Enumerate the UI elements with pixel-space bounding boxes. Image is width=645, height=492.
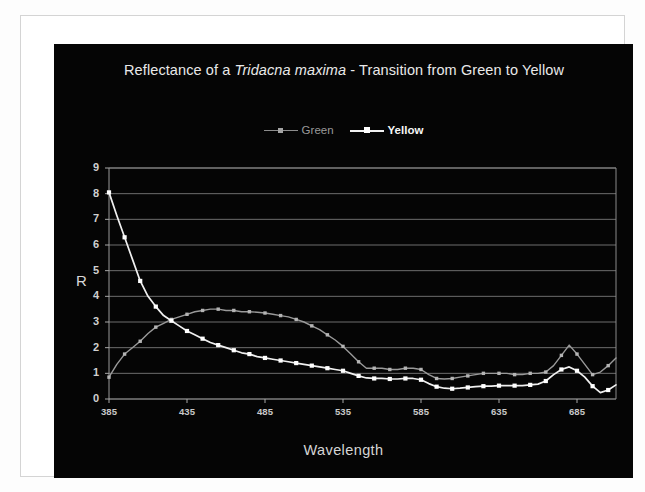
series-marker-green bbox=[560, 354, 563, 357]
x-tick-label: 485 bbox=[243, 406, 287, 417]
series-marker-green bbox=[326, 333, 329, 336]
series-marker-yellow bbox=[435, 385, 439, 389]
series-marker-yellow bbox=[388, 377, 392, 381]
series-marker-green bbox=[217, 307, 220, 310]
x-tick-label: 535 bbox=[321, 406, 365, 417]
series-marker-green bbox=[404, 367, 407, 370]
series-marker-green bbox=[139, 340, 142, 343]
series-marker-green bbox=[310, 324, 313, 327]
series-marker-green bbox=[482, 372, 485, 375]
series-marker-yellow bbox=[341, 369, 345, 373]
series-marker-yellow bbox=[279, 358, 283, 362]
y-tick-label: 1 bbox=[77, 366, 99, 378]
y-tick-label: 8 bbox=[77, 187, 99, 199]
series-marker-green bbox=[341, 345, 344, 348]
x-tick-label: 435 bbox=[165, 406, 209, 417]
series-marker-green bbox=[529, 372, 532, 375]
x-tick-label: 635 bbox=[477, 406, 521, 417]
series-marker-green bbox=[295, 318, 298, 321]
series-marker-green bbox=[497, 372, 500, 375]
series-marker-yellow bbox=[123, 235, 127, 239]
series-marker-yellow bbox=[263, 356, 267, 360]
series-marker-yellow bbox=[294, 361, 298, 365]
series-marker-yellow bbox=[419, 378, 423, 382]
series-marker-yellow bbox=[107, 190, 111, 194]
series-marker-yellow bbox=[403, 376, 407, 380]
series-marker-yellow bbox=[559, 367, 563, 371]
series-marker-yellow bbox=[138, 279, 142, 283]
y-tick-label: 7 bbox=[77, 212, 99, 224]
series-line-yellow bbox=[109, 192, 616, 392]
series-marker-green bbox=[544, 370, 547, 373]
series-marker-green bbox=[466, 374, 469, 377]
series-marker-yellow bbox=[466, 385, 470, 389]
series-marker-yellow bbox=[450, 387, 454, 391]
series-marker-yellow bbox=[357, 374, 361, 378]
series-marker-yellow bbox=[513, 384, 517, 388]
figure-frame: Reflectance of a Tridacna maxima - Trans… bbox=[20, 15, 625, 477]
chart-figure: Reflectance of a Tridacna maxima - Trans… bbox=[54, 44, 633, 478]
series-marker-yellow bbox=[528, 383, 532, 387]
series-marker-yellow bbox=[497, 384, 501, 388]
series-marker-green bbox=[591, 373, 594, 376]
series-marker-green bbox=[154, 325, 157, 328]
y-tick-label: 6 bbox=[77, 238, 99, 250]
series-marker-green bbox=[248, 310, 251, 313]
series-marker-yellow bbox=[372, 376, 376, 380]
y-tick-label: 0 bbox=[77, 392, 99, 404]
y-tick-label: 4 bbox=[77, 289, 99, 301]
chart-page: Reflectance of a Tridacna maxima - Trans… bbox=[0, 0, 645, 492]
series-marker-green bbox=[419, 368, 422, 371]
y-tick-label: 9 bbox=[77, 161, 99, 173]
series-marker-yellow bbox=[216, 343, 220, 347]
series-line-green bbox=[109, 309, 616, 379]
series-marker-green bbox=[451, 377, 454, 380]
x-tick-label: 585 bbox=[399, 406, 443, 417]
series-marker-green bbox=[232, 309, 235, 312]
series-marker-yellow bbox=[575, 369, 579, 373]
y-tick-label: 2 bbox=[77, 341, 99, 353]
series-marker-yellow bbox=[606, 388, 610, 392]
series-marker-yellow bbox=[325, 366, 329, 370]
series-marker-yellow bbox=[591, 384, 595, 388]
series-marker-green bbox=[107, 375, 110, 378]
series-marker-green bbox=[388, 368, 391, 371]
series-marker-green bbox=[185, 313, 188, 316]
series-marker-green bbox=[607, 364, 610, 367]
series-marker-green bbox=[373, 367, 376, 370]
y-tick-label: 3 bbox=[77, 315, 99, 327]
x-tick-label: 385 bbox=[87, 406, 131, 417]
plot-area: R Wavelength 012345678938543548553558563… bbox=[54, 44, 633, 478]
series-marker-green bbox=[435, 377, 438, 380]
series-marker-green bbox=[513, 373, 516, 376]
series-marker-green bbox=[575, 352, 578, 355]
series-marker-green bbox=[201, 309, 204, 312]
series-marker-yellow bbox=[247, 352, 251, 356]
series-marker-yellow bbox=[544, 379, 548, 383]
series-marker-green bbox=[357, 360, 360, 363]
series-marker-yellow bbox=[185, 329, 189, 333]
series-marker-green bbox=[279, 314, 282, 317]
series-marker-yellow bbox=[154, 305, 158, 309]
series-marker-yellow bbox=[169, 319, 173, 323]
x-tick-label: 685 bbox=[555, 406, 599, 417]
series-marker-yellow bbox=[481, 384, 485, 388]
series-marker-yellow bbox=[201, 337, 205, 341]
series-marker-green bbox=[263, 311, 266, 314]
y-tick-label: 5 bbox=[77, 264, 99, 276]
series-marker-yellow bbox=[310, 364, 314, 368]
series-marker-yellow bbox=[232, 348, 236, 352]
series-marker-green bbox=[123, 352, 126, 355]
